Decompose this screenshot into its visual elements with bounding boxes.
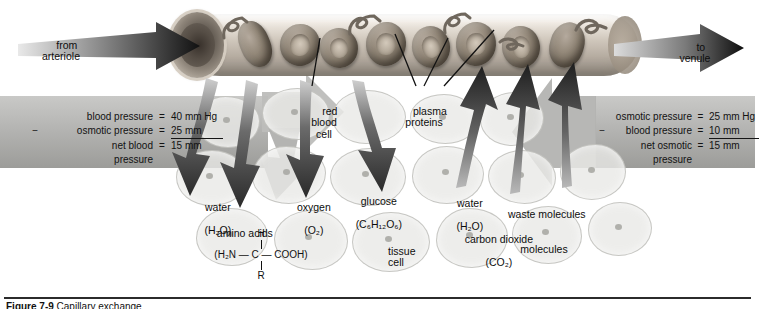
net-osmotic-pressure-equation: osmotic pressure = 25 mm Hg − blood pres… bbox=[596, 110, 754, 166]
plasma-proteins-label: plasma proteins bbox=[392, 94, 456, 140]
op-row3-sign bbox=[596, 139, 605, 166]
from-arteriole-label: from arteriole bbox=[22, 28, 100, 74]
op-row2-sign: − bbox=[596, 124, 605, 140]
amino-acid-backbone: (H₂N — C — COOH) bbox=[198, 249, 324, 261]
plasma-protein-squiggle bbox=[348, 14, 382, 40]
amino-acid-structure: H (H₂N — C — COOH) R bbox=[198, 228, 324, 282]
bp-row2-sign: − bbox=[28, 124, 38, 140]
op-row2-name: blood pressure bbox=[608, 124, 692, 140]
capillary-open-end bbox=[170, 12, 224, 78]
op-row3-eq: = bbox=[695, 139, 706, 166]
bp-row3-eq: = bbox=[156, 139, 168, 166]
plasma-protein-squiggle bbox=[498, 36, 526, 60]
tissue-cell bbox=[480, 92, 544, 146]
capillary-vessel bbox=[168, 8, 638, 82]
bp-row2-name: osmotic pressure bbox=[41, 124, 153, 140]
bp-row3-name: net blood pressure bbox=[41, 139, 153, 166]
to-venule-label: to venule bbox=[660, 30, 730, 76]
bp-row2-value: 25 mm bbox=[171, 124, 223, 140]
figure-caption: Figure 7-9 Capillary exchange bbox=[6, 301, 142, 309]
plasma-protein-squiggle bbox=[442, 12, 472, 38]
bp-row1-name: blood pressure bbox=[41, 110, 153, 124]
amino-acid-top-bond bbox=[198, 240, 324, 249]
amino-acid-r-group: R bbox=[198, 270, 324, 282]
tissue-cell bbox=[588, 202, 652, 256]
substance-label-glucose: glucose (C₆H₁₂O₆) bbox=[330, 184, 416, 242]
bp-row2-eq: = bbox=[156, 124, 168, 140]
bp-row3-value: 15 mm bbox=[171, 139, 246, 166]
net-blood-pressure-equation: blood pressure = 40 mm Hg − osmotic pres… bbox=[28, 110, 246, 166]
bp-row1-value: 40 mm Hg bbox=[171, 110, 246, 124]
op-row2-eq: = bbox=[695, 124, 706, 140]
bp-row3-sign bbox=[28, 139, 38, 166]
op-row1-sign bbox=[596, 110, 605, 124]
caption-text: Capillary exchange bbox=[57, 301, 142, 309]
op-row3-name: net osmotic pressure bbox=[608, 139, 692, 166]
capillary-far-end bbox=[608, 16, 642, 74]
red-blood-cell-label: red blood cell bbox=[300, 94, 348, 152]
amino-acid-top-group: H bbox=[198, 228, 324, 240]
amino-acid-bottom-bond bbox=[198, 261, 324, 270]
op-row1-value: 25 mm Hg bbox=[709, 110, 759, 124]
caption-divider bbox=[4, 297, 751, 299]
caption-number: Figure 7-9 bbox=[6, 301, 54, 309]
plasma-protein-squiggle bbox=[574, 16, 608, 44]
op-row1-eq: = bbox=[695, 110, 706, 124]
bp-row1-sign bbox=[28, 110, 38, 124]
op-row3-value: 15 mm bbox=[709, 139, 759, 166]
plasma-protein-squiggle bbox=[220, 16, 250, 42]
op-row2-value: 10 mm bbox=[709, 124, 759, 140]
substance-label-waste-molecules: waste molecules molecules bbox=[508, 186, 580, 278]
op-row1-name: osmotic pressure bbox=[608, 110, 692, 124]
bp-row1-eq: = bbox=[156, 110, 168, 124]
